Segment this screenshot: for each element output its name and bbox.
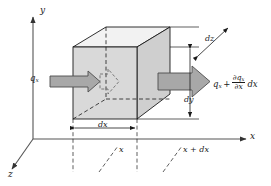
x-projection-left: [99, 146, 118, 172]
inlet-flux-subscript: x: [35, 77, 38, 83]
outlet-flux-dx: dx: [245, 80, 257, 89]
dx-label: dx: [98, 121, 108, 129]
inlet-flux-label: qx: [30, 74, 39, 84]
projection-lines: [99, 146, 182, 172]
x-axis-label: x: [250, 132, 255, 141]
outlet-flux-label: qx+∂qx∂xdx: [213, 74, 258, 91]
derivative-numerator: ∂qx: [232, 74, 246, 82]
x-position-label: x: [119, 146, 124, 154]
dz-dimension: [170, 27, 228, 56]
z-axis-label: z: [8, 170, 13, 179]
heat-conduction-diagram: y x z qx qx+∂qx∂xdx dx dy dz x x + dx: [0, 0, 271, 186]
dy-label: dy: [184, 96, 194, 104]
derivative-numerator-subscript: x: [242, 76, 245, 82]
y-axis-label: y: [40, 6, 45, 15]
dz-label: dz: [205, 35, 214, 43]
outlet-flux-plus: +: [222, 80, 232, 89]
derivative-numerator-text: ∂q: [233, 73, 242, 82]
diagram-canvas: [0, 0, 271, 186]
z-axis: [12, 139, 33, 169]
x-plus-dx-position-label: x + dx: [183, 146, 209, 154]
x-projection-right: [163, 146, 182, 172]
derivative-denominator: ∂x: [232, 82, 246, 91]
outlet-flux-derivative: ∂qx∂x: [232, 74, 246, 91]
